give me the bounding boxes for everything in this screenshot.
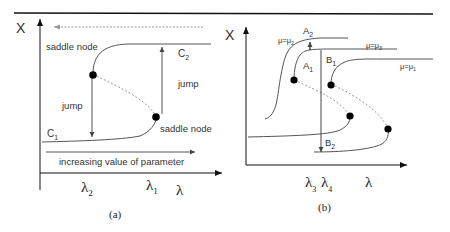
panel-b-saddle-dot-mu3-lower <box>346 112 353 119</box>
panel-b-point-a2: A2 <box>303 25 313 38</box>
panel-a: X saddle node saddle node jump jump C2 C… <box>16 19 222 221</box>
panel-b-curve-mu2 <box>265 38 348 119</box>
panel-b-x-axis-label: λ <box>365 174 373 190</box>
panel-a-lower-branch <box>42 116 157 142</box>
panel-b-tick-lambda3: λ3 <box>305 174 316 194</box>
panel-b: X μ=μ2 μ=μ3 μ=μ1 A2 A1 B1 B2 λ3 <box>225 25 433 214</box>
panel-b-point-b1: B1 <box>326 54 336 67</box>
panel-a-y-axis-label: X <box>16 20 26 36</box>
panel-a-tick-lambda2: λ2 <box>81 179 93 198</box>
panel-b-point-a1: A1 <box>303 60 313 73</box>
panel-b-mu2-label: μ=μ2 <box>278 36 294 46</box>
panel-b-tick-lambda4: λ4 <box>321 174 332 194</box>
panel-a-c1-label: C1 <box>47 128 58 141</box>
panel-a-tick-lambda1: λ1 <box>146 177 158 196</box>
panel-a-unstable-branch <box>93 74 156 116</box>
panel-a-param-label: increasing value of parameter <box>59 156 184 167</box>
panel-b-saddle-dot-mu1-upper <box>327 81 334 88</box>
panel-b-point-b2: B2 <box>325 137 335 150</box>
panel-b-mu1-label: μ=μ1 <box>400 62 416 72</box>
panel-a-saddle-bottom-label: saddle node <box>160 123 212 134</box>
panel-b-mu3-label: μ=μ3 <box>366 41 382 51</box>
panel-b-curve-mu3-upper <box>294 49 397 80</box>
panel-a-caption: (a) <box>109 208 122 221</box>
panel-a-saddle-top-label: saddle node <box>46 41 98 52</box>
panel-b-y-axis-label: X <box>225 27 235 43</box>
panel-a-saddle-dot-lower <box>152 113 160 121</box>
top-rule <box>14 13 433 14</box>
panel-a-jump-left-label: jump <box>61 100 83 111</box>
panel-b-curve-mu3-lower <box>248 116 350 137</box>
bifurcation-diagram: X saddle node saddle node jump jump C2 C… <box>0 0 450 232</box>
panel-b-saddle-dot-mu1-lower <box>384 125 391 132</box>
panel-a-saddle-dot-upper <box>89 71 97 79</box>
panel-b-caption: (b) <box>318 201 331 214</box>
panel-a-upper-branch <box>93 44 211 74</box>
panel-a-jump-right-label: jump <box>177 78 199 89</box>
panel-a-c2-label: C2 <box>178 48 189 61</box>
panel-b-saddle-dot-mu3-upper <box>290 76 297 83</box>
panel-b-curve-mu3-unstable <box>294 80 350 116</box>
panel-b-curve-mu1-upper <box>331 59 433 84</box>
panel-b-curve-mu1-unstable <box>331 84 388 128</box>
panel-a-x-axis-label: λ <box>176 182 184 198</box>
